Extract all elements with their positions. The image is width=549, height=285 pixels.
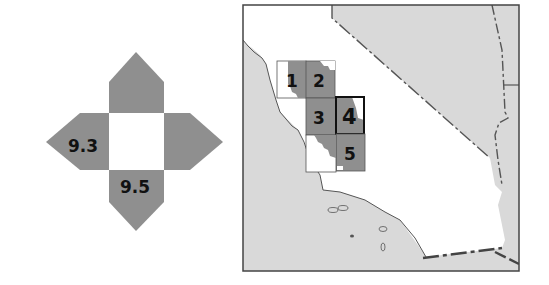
neighborhood-stencil: 9.3 9.5 — [0, 0, 240, 285]
tile-3[interactable]: 3 — [306, 98, 336, 135]
tile-1[interactable]: 1 — [277, 61, 306, 98]
california-tile-map: 1 2 3 4 5 — [240, 0, 549, 285]
stencil-label-left: 9.3 — [68, 136, 98, 156]
stencil-label-bottom: 9.5 — [120, 177, 150, 197]
stencil-arm-top — [109, 52, 164, 113]
tile-partial-southwest — [306, 135, 336, 172]
tile-4-highlighted[interactable]: 4 — [336, 97, 364, 134]
stencil-center-cell — [109, 113, 164, 170]
stencil-arm-right — [164, 113, 223, 170]
tile-label: 4 — [342, 105, 357, 129]
tile-5[interactable]: 5 — [336, 134, 365, 171]
tile-label: 2 — [313, 71, 325, 91]
tile-label: 5 — [344, 144, 356, 164]
tile-label: 3 — [313, 108, 325, 128]
tile-2[interactable]: 2 — [306, 61, 335, 98]
tile-label: 1 — [286, 71, 298, 91]
island — [350, 235, 354, 238]
